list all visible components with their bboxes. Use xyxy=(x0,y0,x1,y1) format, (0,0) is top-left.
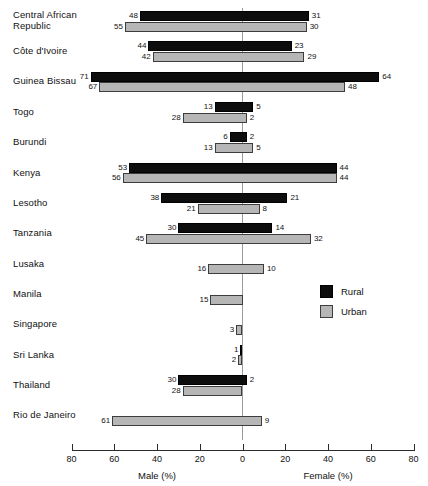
value-label-male: 38 xyxy=(150,194,159,202)
bar-rural xyxy=(91,72,380,82)
x-axis-tick xyxy=(200,444,201,451)
legend-item-urban: Urban xyxy=(320,305,367,318)
value-label-female: 5 xyxy=(256,103,260,111)
value-label-female: 21 xyxy=(290,194,299,202)
bar-urban xyxy=(183,113,247,123)
x-axis-title-female: Female (%) xyxy=(303,470,352,481)
value-label-female: 2 xyxy=(250,114,254,122)
diverging-bar-chart: 4831553044234229716467481352826213553445… xyxy=(0,0,428,486)
legend-swatch-rural-icon xyxy=(320,285,333,298)
x-axis-tick-label: 20 xyxy=(280,454,290,464)
category-label: Singapore xyxy=(13,318,57,329)
value-label-male: 2 xyxy=(232,356,236,364)
bar-urban xyxy=(236,325,242,335)
value-label-male: 13 xyxy=(204,144,213,152)
value-label-male: 56 xyxy=(112,174,121,182)
value-label-male: 61 xyxy=(101,417,110,425)
x-axis-tick xyxy=(371,444,372,451)
value-label-male: 1 xyxy=(234,346,238,354)
value-label-female: 48 xyxy=(348,83,357,91)
bar-rural xyxy=(148,41,291,51)
value-label-male: 13 xyxy=(204,103,213,111)
value-label-female: 30 xyxy=(310,23,319,31)
bar-rural xyxy=(230,132,247,142)
value-label-female: 64 xyxy=(382,73,391,81)
value-label-male: 48 xyxy=(129,12,138,20)
category-label: Guinea Bissau xyxy=(13,75,76,86)
category-label: Central African Republic xyxy=(13,9,77,31)
x-axis-tick xyxy=(157,444,158,451)
value-label-male: 53 xyxy=(118,164,127,172)
plot-area: 4831553044234229716467481352826213553445… xyxy=(0,0,428,440)
bar-urban xyxy=(198,204,260,214)
bar-urban xyxy=(215,143,253,153)
x-axis-title-male: Male (%) xyxy=(138,470,176,481)
bar-rural xyxy=(140,11,309,21)
category-label: Lusaka xyxy=(13,258,44,269)
category-label: Manila xyxy=(13,288,42,299)
x-axis-tick-label: 60 xyxy=(109,454,119,464)
x-axis-tick-label: 80 xyxy=(408,454,418,464)
x-axis-tick xyxy=(243,444,244,451)
value-label-female: 29 xyxy=(307,53,316,61)
x-axis-tick xyxy=(285,444,286,451)
value-label-male: 67 xyxy=(88,83,97,91)
value-label-male: 71 xyxy=(80,73,89,81)
bar-urban xyxy=(153,52,305,62)
x-axis: 80604020020406080Male (%)Female (%) xyxy=(0,440,428,486)
value-label-female: 9 xyxy=(265,417,269,425)
bar-rural xyxy=(215,102,253,112)
value-label-male: 15 xyxy=(200,296,209,304)
category-label: Thailand xyxy=(13,379,50,390)
x-axis-tick xyxy=(414,444,415,451)
value-label-male: 30 xyxy=(167,376,176,384)
value-label-male: 3 xyxy=(230,326,234,334)
legend-label-rural: Rural xyxy=(341,286,364,297)
x-axis-tick xyxy=(72,444,73,451)
value-label-male: 44 xyxy=(138,42,147,50)
x-axis-tick-label: 60 xyxy=(366,454,376,464)
bar-rural xyxy=(178,223,272,233)
value-label-female: 44 xyxy=(340,164,349,172)
bar-urban xyxy=(99,82,345,92)
x-axis-tick xyxy=(114,444,115,451)
value-label-female: 8 xyxy=(263,205,267,213)
category-label: Lesotho xyxy=(13,197,48,208)
x-axis-tick xyxy=(328,444,329,451)
x-axis-tick-label: 40 xyxy=(323,454,333,464)
bar-urban xyxy=(123,173,337,183)
category-label: Togo xyxy=(13,106,34,117)
value-label-female: 23 xyxy=(295,42,304,50)
value-label-female: 5 xyxy=(256,144,260,152)
chart-legend: Rural Urban xyxy=(320,285,367,325)
category-label: Côte d'Ivoire xyxy=(13,45,67,56)
value-label-female: 2 xyxy=(250,376,254,384)
bar-rural xyxy=(129,163,336,173)
value-label-female: 32 xyxy=(314,235,323,243)
bar-rural xyxy=(240,345,242,355)
x-axis-tick-label: 40 xyxy=(152,454,162,464)
legend-swatch-urban-icon xyxy=(320,305,333,318)
bar-urban xyxy=(183,386,243,396)
value-label-male: 55 xyxy=(114,23,123,31)
value-label-male: 21 xyxy=(187,205,196,213)
category-label: Tanzania xyxy=(13,227,52,238)
value-label-female: 31 xyxy=(312,12,321,20)
category-label: Sri Lanka xyxy=(13,349,54,360)
value-label-female: 10 xyxy=(267,265,276,273)
value-label-male: 45 xyxy=(135,235,144,243)
x-axis-tick-label: 0 xyxy=(240,454,245,464)
x-axis-line xyxy=(72,450,415,451)
bar-urban xyxy=(125,22,307,32)
bar-urban xyxy=(112,416,262,426)
bar-rural xyxy=(161,193,287,203)
bar-urban xyxy=(146,234,311,244)
value-label-male: 42 xyxy=(142,53,151,61)
legend-item-rural: Rural xyxy=(320,285,367,298)
value-label-female: 44 xyxy=(340,174,349,182)
value-label-female: 14 xyxy=(275,224,284,232)
bar-urban xyxy=(238,355,242,365)
value-label-male: 16 xyxy=(197,265,206,273)
category-label: Kenya xyxy=(13,167,40,178)
category-label: Rio de Janeiro xyxy=(13,409,76,420)
